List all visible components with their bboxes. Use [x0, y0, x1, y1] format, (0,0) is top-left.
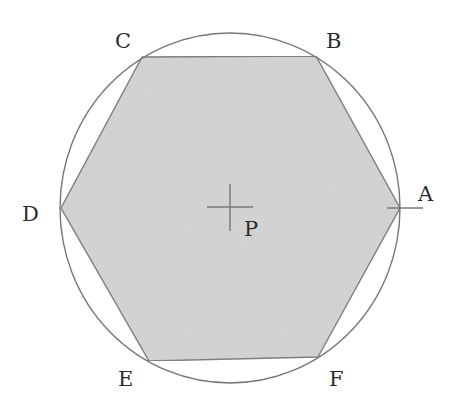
label-center-p: P	[244, 217, 258, 241]
label-vertex-d: D	[22, 202, 39, 226]
hexagon-in-circle-diagram: P A B C D E F	[0, 0, 466, 403]
label-vertex-c: C	[115, 29, 131, 53]
label-vertex-a: A	[417, 182, 434, 206]
label-vertex-b: B	[326, 29, 341, 53]
label-vertex-e: E	[118, 367, 133, 391]
label-vertex-f: F	[329, 367, 344, 391]
